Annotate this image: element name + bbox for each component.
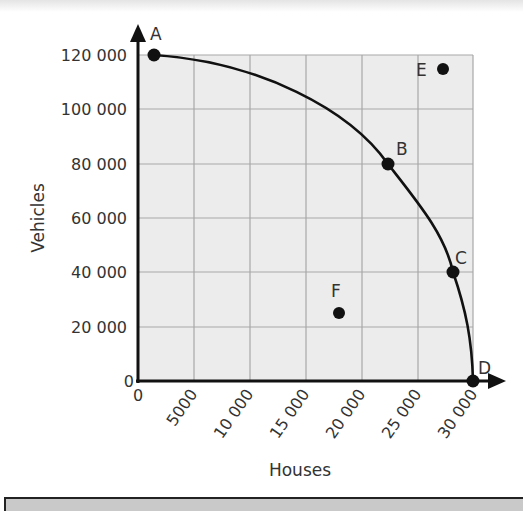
point-c-label: C [455, 248, 467, 268]
point-d-label: D [478, 358, 491, 378]
point-f-label: F [331, 281, 341, 301]
x-tick-label: 30 000 [434, 385, 482, 442]
y-tick-label: 120 000 [61, 46, 127, 65]
x-tick-label: 15 000 [266, 385, 314, 442]
point-b-marker [382, 158, 395, 171]
point-e-marker [437, 63, 449, 75]
x-tick-labels: 5000 10 000 15 000 20 000 25 000 30 000 [162, 385, 481, 442]
point-e-label: E [416, 60, 427, 80]
x-axis-title: Houses [269, 460, 331, 480]
x-tick-label: 25 000 [378, 385, 426, 442]
bottom-caption-box [4, 497, 523, 511]
y-tick-label: 80 000 [71, 155, 127, 174]
y-tick-label: 20 000 [71, 318, 127, 337]
point-b-label: B [396, 139, 408, 159]
y-axis-arrow-icon [130, 24, 146, 42]
x-tick-label: 20 000 [322, 385, 370, 442]
y-tick-label: 100 000 [61, 100, 127, 119]
x-tick-label: 10 000 [210, 385, 258, 442]
y-tick-label: 60 000 [71, 209, 127, 228]
y-axis-title: Vehicles [28, 183, 48, 253]
y-tick-labels: 120 000 100 000 80 000 60 000 40 000 20 … [61, 46, 134, 391]
y-tick-label: 40 000 [71, 263, 127, 282]
point-f-marker [333, 307, 345, 319]
point-a-marker [148, 49, 161, 62]
x-tick-label: 5000 [162, 385, 201, 429]
point-a-label: A [150, 24, 162, 44]
x-tick-label-origin: 0 [133, 386, 143, 405]
